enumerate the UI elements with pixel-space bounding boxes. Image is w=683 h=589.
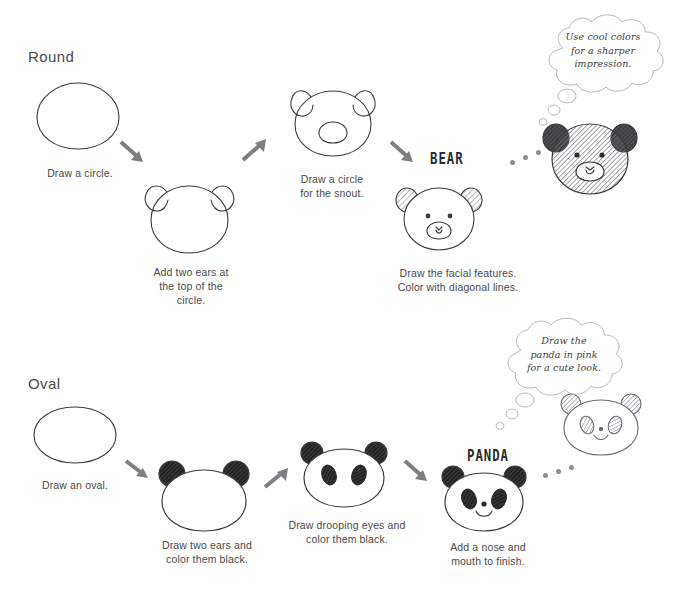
oval-step-2-caption: Draw two ears and color them black. <box>142 538 272 566</box>
caption-line: Draw the facial features. <box>378 266 538 280</box>
bubble-line: for a sharper <box>558 44 648 58</box>
round-step-4-caption: Draw the facial features. Color with dia… <box>378 266 538 294</box>
caption-line: the top of the <box>131 279 251 293</box>
section-title-round: Round <box>28 48 74 65</box>
round-step-3-drawing <box>283 82 383 164</box>
oval-step-4-caption: Add a nose and mouth to finish. <box>428 540 548 568</box>
caption-line: circle. <box>131 293 251 307</box>
oval-step-2-drawing <box>152 458 256 534</box>
trail-dot <box>510 160 515 165</box>
arrow-round-1 <box>118 139 148 165</box>
round-step-2-caption: Add two ears at the top of the circle. <box>131 265 251 307</box>
caption-line: Add two ears at <box>131 265 251 279</box>
caption-line: color them black. <box>277 532 417 546</box>
caption-line: Draw drooping eyes and <box>277 518 417 532</box>
oval-step-1-drawing <box>30 404 120 466</box>
arrow-oval-1 <box>123 458 153 482</box>
arrow-round-2 <box>240 136 270 164</box>
arrow-oval-3 <box>402 458 432 484</box>
trail-dot <box>543 473 548 478</box>
round-step-2-drawing <box>137 176 242 264</box>
result-label-bear: BEAR <box>430 150 464 168</box>
bubble-line: impression. <box>558 57 648 71</box>
panda-bubble-text: Draw the panda in pink for a cute look. <box>518 334 610 375</box>
round-step-1-caption: Draw a circle. <box>0 166 160 180</box>
caption-line: color them black. <box>142 552 272 566</box>
caption-line: Draw a circle. <box>0 166 160 180</box>
caption-line: Add a nose and <box>428 540 548 554</box>
caption-line: mouth to finish. <box>428 554 548 568</box>
section-title-oval: Oval <box>28 375 60 392</box>
bubble-line: panda in pink <box>518 348 610 362</box>
bubble-line: Draw the <box>518 334 610 348</box>
caption-line: Draw two ears and <box>142 538 272 552</box>
bubble-line: for a cute look. <box>518 361 610 375</box>
trail-dot <box>523 155 528 160</box>
arrow-oval-2 <box>262 465 292 491</box>
caption-line: for the snout. <box>282 186 382 200</box>
round-step-3-caption: Draw a circle for the snout. <box>282 172 382 200</box>
round-step-1-drawing <box>33 80 123 152</box>
trail-dot <box>556 469 561 474</box>
caption-line: Color with diagonal lines. <box>378 280 538 294</box>
oval-step-3-drawing <box>295 440 393 512</box>
oval-step-3-caption: Draw drooping eyes and color them black. <box>277 518 417 546</box>
bear-bubble-text: Use cool colors for a sharper impression… <box>558 30 648 71</box>
arrow-round-3 <box>388 139 418 165</box>
round-step-4-drawing <box>391 180 487 258</box>
bubble-line: Use cool colors <box>558 30 648 44</box>
tutorial-page: Round Draw a circle. Add two ears at the… <box>0 0 683 589</box>
oval-step-4-drawing <box>435 462 533 538</box>
caption-line: Draw a circle <box>282 172 382 186</box>
